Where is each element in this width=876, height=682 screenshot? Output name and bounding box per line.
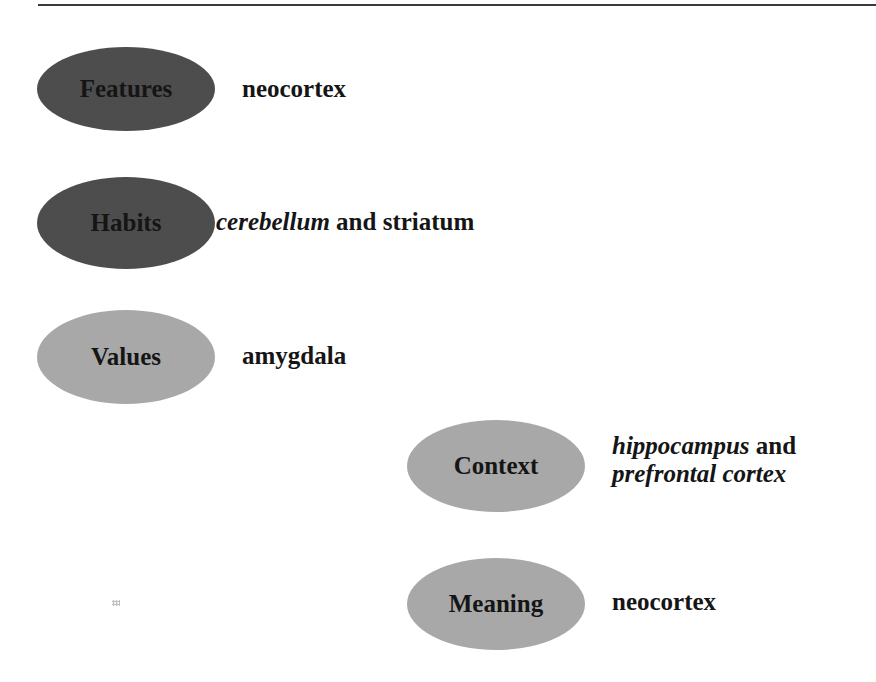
region-text-italic: hippocampus bbox=[612, 432, 750, 459]
region-text: neocortex bbox=[242, 75, 346, 102]
node-features-ellipse: Features bbox=[37, 47, 215, 131]
scan-artifact-speck bbox=[112, 600, 120, 606]
node-values-region: amygdala bbox=[242, 342, 346, 370]
region-text: amygdala bbox=[242, 342, 346, 369]
node-meaning-label: Meaning bbox=[449, 590, 543, 618]
node-values-label: Values bbox=[91, 343, 161, 371]
node-habits-ellipse: Habits bbox=[37, 177, 215, 269]
node-habits-label: Habits bbox=[91, 209, 162, 237]
region-text-italic: cerebellum bbox=[216, 208, 330, 235]
region-text-italic: prefrontal cortex bbox=[612, 460, 786, 487]
node-habits-region: cerebellum and striatum bbox=[216, 208, 474, 236]
top-divider-rule bbox=[38, 4, 876, 6]
region-text: neocortex bbox=[612, 588, 716, 615]
node-context-region: hippocampus and prefrontal cortex bbox=[612, 432, 796, 488]
node-meaning-ellipse: Meaning bbox=[407, 558, 585, 650]
node-context-label: Context bbox=[454, 452, 539, 480]
node-values-ellipse: Values bbox=[37, 310, 215, 404]
node-features-label: Features bbox=[80, 75, 173, 103]
region-text: and bbox=[750, 432, 797, 459]
node-context-ellipse: Context bbox=[407, 420, 585, 512]
node-meaning-region: neocortex bbox=[612, 588, 716, 616]
node-features-region: neocortex bbox=[242, 75, 346, 103]
region-text: and striatum bbox=[330, 208, 474, 235]
